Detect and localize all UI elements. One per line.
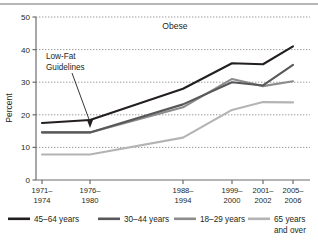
legend-label-3: 65 years xyxy=(274,215,305,224)
x-tick-label-3-top: 1999– xyxy=(221,186,243,195)
annotation-arrow-head xyxy=(87,120,93,129)
x-tick-label-5-top: 2005– xyxy=(282,186,304,195)
legend-label-0: 45–64 years xyxy=(34,215,79,224)
annotation-line-1: Low-Fat xyxy=(46,52,76,61)
x-tick-label-3-bottom: 2000 xyxy=(224,196,241,205)
low-fat-guidelines-annotation: Low-Fat Guidelines xyxy=(46,52,93,128)
y-tick-label-30: 30 xyxy=(21,78,30,87)
y-axis-title: Percent xyxy=(4,93,14,123)
y-tick-label-0: 0 xyxy=(26,176,31,185)
x-tick-label-4-bottom: 2002 xyxy=(255,196,272,205)
y-axis-tick-labels: 50 40 30 20 10 0 xyxy=(21,13,30,185)
x-tick-label-5-bottom: 2006 xyxy=(285,196,302,205)
y-tick-label-10: 10 xyxy=(21,143,30,152)
x-tick-label-0-bottom: 1974 xyxy=(34,196,51,205)
x-tick-label-4-top: 2001– xyxy=(252,186,274,195)
legend-label-3-line2: and over xyxy=(274,226,306,235)
y-tick-label-50: 50 xyxy=(21,13,30,22)
x-tick-label-1-top: 1976– xyxy=(79,186,101,195)
legend-label-2: 18–29 years xyxy=(200,215,245,224)
y-tick-label-40: 40 xyxy=(21,46,30,55)
chart-canvas: 50 40 30 20 10 0 Percent 1971– 1974 1976… xyxy=(0,0,318,244)
series-line-18-29-years xyxy=(42,79,293,132)
x-tick-marks xyxy=(42,180,293,184)
chart-legend: 45–64 years30–44 years18–29 years65 year… xyxy=(8,215,306,235)
obesity-trend-chart-figure: 50 40 30 20 10 0 Percent 1971– 1974 1976… xyxy=(0,0,318,244)
legend-label-1: 30–44 years xyxy=(124,215,169,224)
x-tick-label-2-top: 1988– xyxy=(172,186,194,195)
series-line-30-44-years xyxy=(42,65,293,132)
x-tick-label-2-bottom: 1994 xyxy=(175,196,192,205)
x-axis-tick-labels: 1971– 1974 1976– 1980 1988– 1994 1999– 2… xyxy=(31,186,304,205)
y-tick-label-20: 20 xyxy=(21,111,30,120)
x-tick-label-0-top: 1971– xyxy=(31,186,53,195)
x-tick-label-1-bottom: 1980 xyxy=(82,196,99,205)
annotation-line-2: Guidelines xyxy=(46,63,85,72)
plot-title-obese: Obese xyxy=(162,21,188,31)
